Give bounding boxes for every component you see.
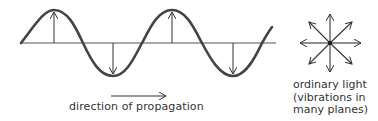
ordinary-light-label: ordinary light (vibrations in many plane… <box>293 79 368 117</box>
ordinary-light-line-3: many planes) <box>293 104 368 117</box>
propagation-label: direction of propagation <box>69 100 204 113</box>
multi-plane-vibration-star-icon <box>300 14 361 72</box>
ordinary-light-line-1: ordinary light <box>293 79 368 92</box>
